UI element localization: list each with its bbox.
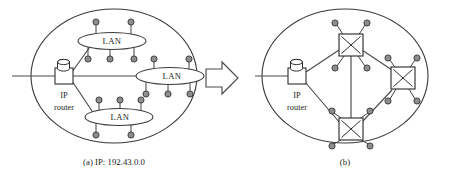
host-node — [414, 98, 420, 104]
host-node — [186, 56, 192, 62]
host-node — [367, 143, 373, 149]
panel-b-caption: (b) — [340, 157, 350, 167]
host-node — [128, 132, 134, 138]
host-node — [165, 91, 171, 97]
panel-a-lan-middle-label: LAN — [163, 71, 182, 81]
host-node — [128, 19, 134, 25]
host-node — [107, 56, 113, 62]
host-node — [385, 55, 391, 61]
host-node — [131, 56, 137, 62]
panel-a-lan-bottom-label: LAN — [111, 112, 130, 122]
host-node — [143, 91, 149, 97]
host-node — [187, 91, 193, 97]
panel-b-router-label-line1: IP — [293, 91, 301, 100]
host-node — [329, 143, 335, 149]
host-node — [96, 97, 102, 103]
panel-b-router-label-line2: router — [287, 103, 307, 112]
router-cylinder-top — [291, 59, 303, 64]
host-node — [364, 65, 370, 71]
host-node — [93, 132, 99, 138]
host-node — [367, 108, 373, 114]
host-node — [332, 20, 338, 26]
panel-a-lan-top-label: LAN — [103, 36, 122, 46]
panel-a: LAN LAN — [12, 9, 204, 167]
host-node — [385, 98, 391, 104]
network-figure: LAN LAN — [0, 0, 454, 179]
panel-b: IP router (b) — [255, 9, 428, 167]
host-node — [117, 97, 123, 103]
host-node — [93, 19, 99, 25]
panel-a-router-label-line2: router — [54, 103, 74, 112]
right-arrow-icon — [206, 62, 238, 94]
diagram-canvas: LAN LAN — [0, 0, 454, 179]
host-node — [364, 20, 370, 26]
host-node — [138, 97, 144, 103]
transition-arrow — [206, 62, 238, 94]
panel-a-router-label-line1: IP — [60, 91, 68, 100]
panel-a-caption: (a) IP: 192.43.0.0 — [83, 157, 145, 167]
host-node — [85, 56, 91, 62]
host-node — [332, 65, 338, 71]
host-node — [151, 56, 157, 62]
router-cylinder-top — [58, 59, 70, 64]
host-node — [414, 55, 420, 61]
host-node — [329, 108, 335, 114]
